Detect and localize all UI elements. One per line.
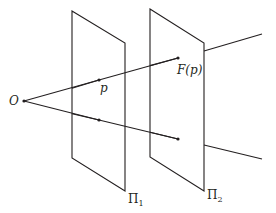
ray-segment-fp-front	[150, 58, 178, 66]
point-o	[22, 99, 25, 102]
label-pi-2-base: Π	[207, 188, 217, 202]
label-origin: O	[9, 94, 19, 108]
ray-extension-lower	[204, 145, 262, 159]
ray-extension-upper	[204, 34, 262, 51]
ray-segment-q-front	[72, 114, 99, 120]
plane-pi-2	[150, 9, 204, 191]
ray-segment-p-front	[72, 80, 99, 88]
label-pi-1: Π1	[128, 192, 144, 208]
label-p: p	[100, 81, 108, 95]
ray-segment-fq-front	[150, 132, 178, 139]
plane-pi-1	[72, 11, 125, 191]
label-fp: F(p)	[176, 63, 203, 77]
label-pi-1-base: Π	[128, 192, 138, 206]
point-q	[97, 118, 100, 121]
label-pi-2: Π2	[207, 188, 223, 204]
label-pi-2-sub: 2	[217, 195, 222, 204]
projection-diagram: O p F(p) Π1 Π2	[0, 0, 276, 213]
label-pi-1-sub: 1	[138, 199, 143, 208]
point-fp	[176, 56, 179, 59]
point-fq	[176, 137, 179, 140]
